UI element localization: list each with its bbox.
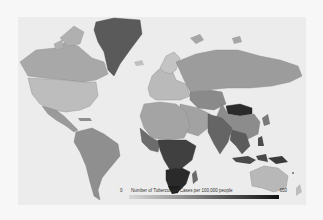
legend-max-label: 650 (279, 188, 287, 193)
region-iceland (134, 60, 144, 66)
region-papua (268, 156, 288, 164)
region-caribbean (78, 118, 92, 121)
region-indonesia (232, 154, 268, 164)
map-legend: 0 Number of Tuberculosis Cases per 100,0… (120, 188, 295, 202)
region-korea-japan (262, 114, 270, 126)
region-central-africa (158, 140, 196, 170)
legend-gradient-bar (129, 195, 279, 199)
region-south-america (74, 128, 120, 200)
region-new-zealand (296, 184, 302, 196)
region-philippines (258, 136, 264, 146)
region-usa (28, 78, 98, 112)
legend-min-label: 0 (120, 188, 123, 193)
region-russia (176, 50, 302, 92)
legend-title: Number of Tuberculosis Cases per 100,000… (131, 188, 233, 193)
region-arctic-islands (190, 34, 242, 44)
world-map (0, 0, 323, 220)
region-madagascar (192, 170, 198, 184)
